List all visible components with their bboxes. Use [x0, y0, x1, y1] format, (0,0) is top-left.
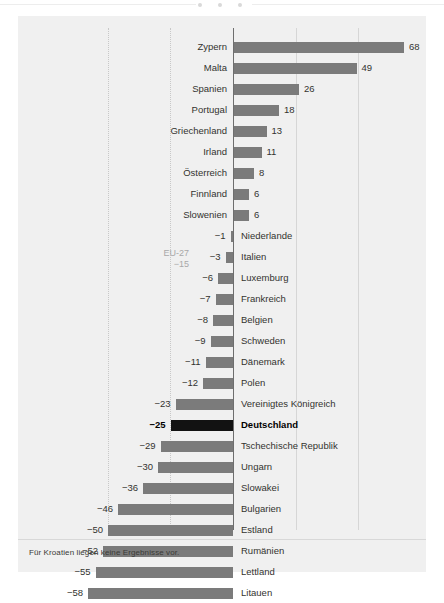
table-row: 8Österreich — [18, 163, 426, 184]
bar-category-label: Vereinigtes Königreich — [241, 397, 336, 411]
crop-dot-2 — [218, 3, 222, 7]
chart-figure: 68Zypern49Malta26Spanien18Portugal13Grie… — [18, 16, 426, 572]
chart-footnote: Für Kroatien liegen keine Ergebnisse vor… — [29, 548, 179, 557]
bar-value-label: 26 — [304, 82, 315, 96]
bar-category-label: Rumänien — [241, 544, 284, 558]
bar-value-label: 13 — [272, 124, 283, 138]
bar-category-label: Griechenland — [170, 124, 227, 138]
bar-value-label: −55 — [74, 565, 90, 579]
table-row: −50Estland — [18, 520, 426, 541]
table-row: −29Tschechische Republik — [18, 436, 426, 457]
bar-value-label: 11 — [267, 145, 277, 159]
bar-category-label: Dänemark — [241, 355, 285, 369]
bar — [234, 189, 249, 200]
bar — [213, 315, 233, 326]
table-row: −7Frankreich — [18, 289, 426, 310]
bar — [96, 567, 234, 578]
bar-category-label: Finnland — [191, 187, 227, 201]
bar-value-label: −58 — [67, 586, 83, 600]
bar — [206, 357, 234, 368]
table-row: 26Spanien — [18, 79, 426, 100]
table-row: −25Deutschland — [18, 415, 426, 436]
bar-category-label: Zypern — [197, 40, 227, 54]
table-row: −23Vereinigtes Königreich — [18, 394, 426, 415]
bar-category-label: Niederlande — [241, 229, 292, 243]
bar-value-label: 6 — [254, 208, 259, 222]
bar-category-label: Bulgarien — [241, 502, 281, 516]
crop-dot-3 — [238, 3, 242, 7]
table-row: 49Malta — [18, 58, 426, 79]
table-row: −8Belgien — [18, 310, 426, 331]
bar — [171, 420, 234, 431]
bar — [234, 168, 254, 179]
eu27-label: EU-27 — [163, 248, 189, 259]
bar-value-label: 49 — [362, 61, 373, 75]
bar — [218, 273, 233, 284]
bar — [118, 504, 233, 515]
bar-value-label: −25 — [149, 418, 165, 432]
bar-category-label: Deutschland — [241, 418, 298, 432]
bar-value-label: −8 — [197, 313, 208, 327]
bar-category-label: Luxemburg — [241, 271, 289, 285]
bar — [231, 231, 234, 242]
table-row: −36Slowakei — [18, 478, 426, 499]
bar-category-label: Schweden — [241, 334, 285, 348]
bar-category-label: Ungarn — [241, 460, 272, 474]
eu27-value: −15 — [163, 259, 189, 270]
chart-plot-area: 68Zypern49Malta26Spanien18Portugal13Grie… — [18, 16, 426, 530]
table-row: −1Niederlande — [18, 226, 426, 247]
bar-category-label: Slowakei — [241, 481, 279, 495]
table-row: −58Litauen — [18, 583, 426, 603]
bar — [234, 63, 357, 74]
bar-category-label: Spanien — [192, 82, 227, 96]
bar — [234, 147, 262, 158]
bar — [234, 84, 299, 95]
bar — [108, 525, 233, 536]
crop-rule-right — [252, 4, 444, 5]
bar-value-label: 68 — [409, 40, 420, 54]
bar — [88, 588, 233, 599]
bar — [234, 210, 249, 221]
bar-category-label: Österreich — [183, 166, 227, 180]
bar-value-label: −46 — [97, 502, 113, 516]
eu27-annotation: EU-27 −15 — [163, 248, 189, 269]
bar — [226, 252, 234, 263]
bar-value-label: −36 — [122, 481, 138, 495]
table-row: −3Italien — [18, 247, 426, 268]
bar-category-label: Slowenien — [183, 208, 227, 222]
bar-value-label: −23 — [154, 397, 170, 411]
bar — [176, 399, 234, 410]
table-row: −46Bulgarien — [18, 499, 426, 520]
bar-rows: 68Zypern49Malta26Spanien18Portugal13Grie… — [18, 37, 426, 603]
bar-category-label: Frankreich — [241, 292, 286, 306]
table-row: 6Finnland — [18, 184, 426, 205]
bar-value-label: −30 — [137, 460, 153, 474]
bar — [234, 105, 279, 116]
table-row: 18Portugal — [18, 100, 426, 121]
bar-value-label: −1 — [215, 229, 226, 243]
bar-value-label: −11 — [185, 355, 200, 369]
table-row: −12Polen — [18, 373, 426, 394]
bar-value-label: 8 — [259, 166, 264, 180]
bar-category-label: Portugal — [192, 103, 227, 117]
bar-value-label: 6 — [254, 187, 259, 201]
footnote-divider — [18, 539, 426, 540]
bar-value-label: −3 — [210, 250, 221, 264]
bar-category-label: Italien — [241, 250, 266, 264]
bar-category-label: Estland — [241, 523, 273, 537]
bar-value-label: −9 — [195, 334, 206, 348]
bar — [203, 378, 233, 389]
bar-category-label: Lettland — [241, 565, 275, 579]
bar-value-label: −50 — [87, 523, 103, 537]
bar-value-label: 18 — [284, 103, 295, 117]
bar — [161, 441, 234, 452]
bar — [143, 483, 233, 494]
table-row: −6Luxemburg — [18, 268, 426, 289]
bar-category-label: Belgien — [241, 313, 273, 327]
table-row: 13Griechenland — [18, 121, 426, 142]
crop-marks — [0, 0, 444, 14]
table-row: 68Zypern — [18, 37, 426, 58]
table-row: 11Irland — [18, 142, 426, 163]
bar-value-label: −29 — [139, 439, 155, 453]
table-row: −9Schweden — [18, 331, 426, 352]
